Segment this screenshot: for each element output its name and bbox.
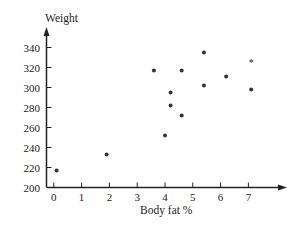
y-tick-label: 340 — [24, 42, 41, 54]
data-point — [152, 69, 156, 73]
x-tick-label: 2 — [107, 191, 113, 203]
y-tick-label: 320 — [24, 62, 41, 74]
y-tick-label: 300 — [24, 82, 41, 94]
x-tick-label: 1 — [79, 191, 85, 203]
data-point — [105, 153, 109, 157]
x-tick-label: 3 — [134, 191, 140, 203]
x-tick-label: 6 — [218, 191, 224, 203]
data-point — [202, 51, 206, 55]
x-tick-label: 7 — [246, 191, 252, 203]
data-point — [202, 84, 206, 88]
asterisk-marker-icon: * — [249, 57, 254, 68]
data-point — [169, 104, 173, 108]
plot-area: Weight Body fat % 2002202402602803003203… — [0, 0, 307, 229]
x-axis-ticks: 01234567 — [51, 183, 252, 204]
data-point — [55, 169, 59, 173]
y-axis-title: Weight — [45, 12, 79, 25]
y-tick-label: 260 — [24, 122, 41, 134]
x-tick-label: 0 — [51, 191, 57, 203]
x-axis-arrow-icon — [278, 185, 287, 191]
data-point — [249, 88, 253, 92]
y-tick-label: 240 — [24, 142, 41, 154]
y-tick-label: 280 — [24, 102, 41, 114]
y-tick-label: 200 — [24, 182, 41, 194]
y-tick-label: 220 — [24, 162, 41, 174]
data-point — [163, 134, 167, 138]
data-point — [180, 69, 184, 73]
x-axis-title: Body fat % — [140, 204, 193, 217]
data-point — [180, 114, 184, 118]
scatter-chart: Weight Body fat % 2002202402602803003203… — [0, 0, 307, 229]
x-tick-label: 4 — [162, 191, 168, 203]
y-axis-arrow-icon — [44, 27, 50, 36]
data-points: * — [55, 51, 254, 173]
x-tick-label: 5 — [190, 191, 196, 203]
y-axis-ticks: 200220240260280300320340 — [24, 42, 52, 194]
data-point — [169, 91, 173, 95]
data-point — [224, 75, 228, 79]
